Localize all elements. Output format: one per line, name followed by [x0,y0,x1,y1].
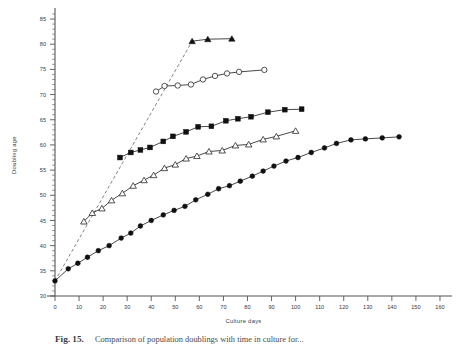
figure-container: 303540455055606570758085 010203040506070… [0,0,459,345]
data-point-circle-filled [284,159,289,164]
data-point-circle-filled [96,248,101,253]
data-point-triangle-open [150,172,156,178]
data-point-circle-filled [119,236,124,241]
y-tick-label: 80 [40,41,46,47]
data-point-square-filled [161,139,166,144]
data-point-triangle-open [194,153,200,159]
data-point-circle-filled [216,186,221,191]
data-point-circle-filled [349,137,354,142]
data-point-circle-filled [322,146,327,151]
x-tick-label: 100 [291,304,300,310]
data-point-circle-filled [138,224,143,229]
data-point-circle-filled [193,197,198,202]
y-tick-label: 70 [40,92,46,98]
data-point-circle-open [224,71,229,76]
data-point-triangle-open [141,177,147,183]
data-point-circle-filled [250,174,255,179]
x-tick-label: 140 [387,304,396,310]
data-point-circle-open [212,73,217,78]
y-axis-title: Doubling age [11,136,17,174]
data-point-circle-filled [75,261,80,266]
data-point-triangle-open [245,141,251,147]
x-tick-label: 20 [100,304,106,310]
x-tick-label: 120 [339,304,348,310]
data-point-square-filled [249,114,254,119]
x-tick-label: 130 [363,304,372,310]
data-point-circle-filled [85,255,90,260]
data-point-circle-filled [172,208,177,213]
data-point-circle-filled [149,218,154,223]
data-point-triangle-open [119,190,125,196]
series-path [192,39,232,42]
y-tick-label: 75 [40,66,46,72]
data-point-circle-filled [397,134,402,139]
series-path [55,41,192,281]
data-point-circle-open [162,83,167,88]
y-tick-label: 40 [40,243,46,249]
data-point-circle-filled [380,135,385,140]
data-point-triangle-open [161,165,167,171]
data-point-circle-open [262,67,267,72]
data-point-triangle-open [108,197,114,203]
y-tick-label: 30 [40,293,46,299]
data-point-triangle-open [172,162,178,168]
data-point-circle-filled [296,155,301,160]
data-point-circle-filled [128,231,133,236]
caption-body: Comparison of population doublings with … [95,335,304,344]
chart-canvas: 303540455055606570758085 010203040506070… [0,0,459,345]
data-point-square-filled [223,118,228,123]
data-point-circle-filled [53,278,58,283]
series-open-circles [153,67,267,94]
y-tick-label: 60 [40,142,46,148]
data-point-circle-open [200,77,205,82]
data-point-circle-filled [107,243,112,248]
data-point-square-filled [148,145,153,150]
data-point-square-filled [128,150,133,155]
y-tick-label: 85 [40,16,46,22]
data-point-triangle-open [292,128,298,134]
x-tick-label: 10 [76,304,82,310]
data-point-triangle-open [130,183,136,189]
data-point-circle-open [153,89,158,94]
data-point-triangle-open [89,210,95,216]
data-point-circle-filled [272,164,277,169]
caption-canvas: Fig. 15. Comparison of population doubli… [0,333,459,345]
data-point-circle-filled [309,150,314,155]
series-path [156,70,264,92]
x-tick-label: 0 [53,304,56,310]
data-point-circle-filled [66,266,71,271]
x-tick-label: 60 [196,304,202,310]
x-tick-label: 40 [148,304,154,310]
data-point-circle-filled [161,213,166,218]
x-tick-label: 110 [315,304,324,310]
data-point-triangle-open [273,133,279,139]
data-point-circle-filled [363,136,368,141]
data-point-square-filled [209,124,214,129]
x-tick-label: 150 [411,304,420,310]
data-point-square-filled [299,107,304,112]
chart-series-group [53,36,402,284]
y-tick-label: 50 [40,192,46,198]
x-tick-label: 90 [268,304,274,310]
figure-caption: Fig. 15. Comparison of population doubli… [0,332,459,345]
data-point-square-filled [282,107,287,112]
data-point-square-filled [235,116,240,121]
y-tick-label: 65 [40,117,46,123]
data-point-square-filled [118,155,123,160]
data-point-circle-filled [205,192,210,197]
data-point-circle-filled [183,204,188,209]
caption-label: Fig. 15. [55,334,84,344]
series-dashed-extrapolation [55,41,192,281]
data-point-circle-filled [334,141,339,146]
y-tick-label: 35 [40,268,46,274]
data-point-square-filled [184,129,189,134]
series-path [120,109,302,157]
x-tick-label: 160 [435,304,444,310]
data-point-circle-filled [261,169,266,174]
series-path [84,131,296,222]
y-tick-label: 55 [40,167,46,173]
x-axis-title: Culture days [225,318,261,324]
data-point-square-filled [138,148,143,153]
x-tick-label: 50 [172,304,178,310]
data-point-circle-filled [238,179,243,184]
